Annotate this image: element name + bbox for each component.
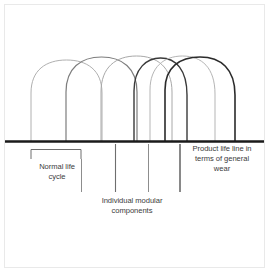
label-product-life-line: Product life line in terms of general we… — [180, 144, 264, 174]
normal-life-cycle-bracket — [31, 150, 81, 160]
diagram-canvas: Normal life cycle Individual modular com… — [0, 0, 269, 272]
label-normal-life-cycle: Normal life cycle — [26, 162, 88, 182]
arch-group — [31, 56, 235, 141]
leader-line-group — [82, 144, 181, 192]
arch-curve-5 — [150, 56, 215, 141]
arch-curve-4 — [134, 58, 187, 141]
label-individual-modular-components: Individual modular components — [84, 196, 180, 216]
arch-curve-6 — [165, 57, 235, 141]
life-cycle-diagram — [0, 0, 269, 272]
